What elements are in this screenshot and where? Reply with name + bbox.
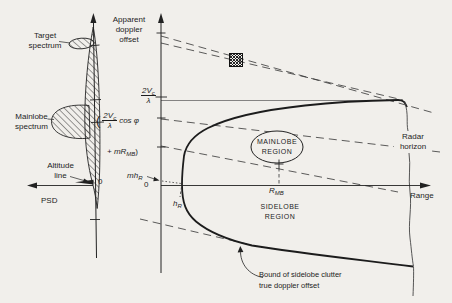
mhr-base: mh xyxy=(127,171,138,180)
target-spectrum-label: Target spectrum xyxy=(27,31,63,51)
mainlobe-region-label: MAINLOBE REGION xyxy=(252,137,302,157)
formula-cos-term: cos φ xyxy=(119,116,139,126)
mhr-label: mhR xyxy=(127,171,142,181)
psd-axis-arrowhead xyxy=(27,183,37,189)
right-doppler-axis-arrowhead xyxy=(158,13,164,23)
mainlobe-doppler-formula-line2: + mRMB) xyxy=(107,147,138,157)
right-origin-label: 0 xyxy=(144,180,148,190)
target-spectrum-line2: spectrum xyxy=(27,41,63,51)
range-axis-label: Range xyxy=(410,191,434,201)
sidelobe-region-label: SIDELOBE REGION xyxy=(255,202,305,222)
clutter-doppler-diagram: Apparent doppler offset Target spectrum … xyxy=(0,0,452,303)
mainlobe-region-line2: REGION xyxy=(252,147,302,157)
bound-note-line2: true doppler offset xyxy=(259,281,342,292)
mainlobe-doppler-formula: ( 2Vcλ cos φ xyxy=(96,111,139,130)
psd-axis-label: PSD xyxy=(41,196,57,206)
radar-horizon-line2: horizon xyxy=(394,142,432,152)
mainlobe-region-line1: MAINLOBE xyxy=(252,137,302,147)
formula-open-paren: ( xyxy=(96,116,100,126)
formula-fraction: 2Vcλ xyxy=(102,111,117,130)
radar-horizon-label: Radar horizon xyxy=(394,132,432,152)
left-origin-label: 0 xyxy=(98,177,102,187)
mainlobe-spectrum-lobe xyxy=(52,105,91,138)
formula-denominator: λ xyxy=(108,121,112,130)
mainlobe-spectrum-label: Mainlobe spectrum xyxy=(13,112,50,132)
diagram-linework xyxy=(0,0,452,303)
range-axis-arrowhead xyxy=(420,183,431,189)
hr-label: hR xyxy=(173,199,182,209)
mainlobe-spectrum-line1: Mainlobe xyxy=(13,112,50,122)
formula-second-base: + mR xyxy=(107,147,126,156)
mhr-sub: R xyxy=(138,175,142,181)
ambiguity-line-1 xyxy=(161,36,434,113)
2vc-numerator: 2V xyxy=(142,86,152,95)
sidelobe-clutter-bound-curve xyxy=(182,100,413,267)
bound-note-label: Bound of sidelobe clutter true doppler o… xyxy=(259,270,342,291)
altitude-line-line2: line xyxy=(42,171,79,181)
right-y-axis-title: Apparent doppler offset xyxy=(104,15,154,45)
mainlobe-spectrum-line2: spectrum xyxy=(13,122,50,132)
y-axis-title-line3: offset xyxy=(104,35,154,45)
rmb-label: RMB xyxy=(269,186,284,196)
bound-note-arrowhead xyxy=(238,246,244,253)
left-axis-tick-upper xyxy=(90,100,101,101)
rmb-sub: MB xyxy=(275,190,284,196)
2vc-denominator: λ xyxy=(146,96,150,105)
formula-second-sub: MB xyxy=(126,151,135,157)
altitude-line-line1: Altitude xyxy=(42,161,79,171)
radar-horizon-line1: Radar xyxy=(394,132,432,142)
hr-projection-dashed xyxy=(180,187,182,197)
formula-close-paren: ) xyxy=(135,147,138,156)
altitude-line-label: Altitude line xyxy=(42,161,79,181)
sidelobe-region-line1: SIDELOBE xyxy=(255,202,305,212)
formula-numerator: 2V xyxy=(103,111,113,120)
sidelobe-region-line2: REGION xyxy=(255,212,305,222)
hr-sub: R xyxy=(177,203,181,209)
mhr-leader-arrowhead xyxy=(153,177,159,181)
2vc-numerator-sub: c xyxy=(152,90,155,96)
mhr-projection-dotted xyxy=(162,181,181,184)
y-axis-title-line1: Apparent xyxy=(104,15,154,25)
bound-note-line1: Bound of sidelobe clutter xyxy=(259,270,342,281)
left-doppler-axis-arrowhead xyxy=(90,13,96,23)
target-spectrum-line1: Target xyxy=(27,31,63,41)
right-axis-2vc-label: 2Vc λ xyxy=(141,86,156,105)
y-axis-title-line2: doppler xyxy=(104,25,154,35)
target-marker-icon xyxy=(230,54,243,67)
formula-numerator-sub: c xyxy=(113,115,116,121)
ambiguity-line-2 xyxy=(161,43,403,100)
